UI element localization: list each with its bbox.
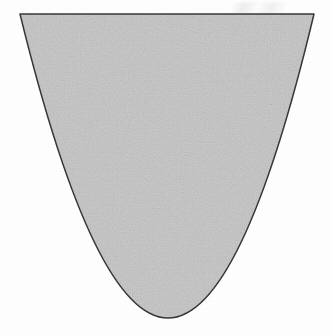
shaded-parabolic-region: [0, 0, 332, 335]
parabolic-region-path: [20, 14, 314, 318]
scanned-page: [0, 0, 332, 335]
